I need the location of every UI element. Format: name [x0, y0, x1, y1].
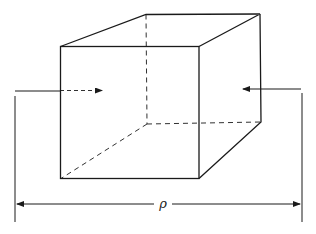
dimension-label: ρ [158, 196, 167, 211]
top-face-edges [61, 14, 261, 47]
right-face-edges [199, 14, 261, 179]
cube [61, 14, 262, 179]
left-arrow [15, 91, 102, 92]
front-face [61, 47, 200, 179]
hidden-edges [61, 15, 261, 179]
cube-diagram: ρ [0, 0, 316, 234]
